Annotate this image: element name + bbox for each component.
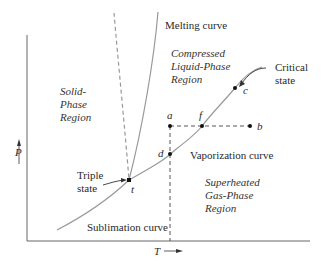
triple-state-label: Triple state bbox=[77, 169, 104, 195]
liquid-phase-region-label: Compressed Liquid-Phase Region bbox=[171, 47, 230, 86]
temperature-arrow-icon bbox=[164, 249, 183, 253]
melting-curve bbox=[129, 12, 158, 180]
point-d bbox=[168, 152, 172, 156]
point-c bbox=[233, 86, 237, 90]
critical-state-label: Critical state bbox=[275, 61, 308, 87]
point-b bbox=[248, 124, 252, 128]
triple-point-label: t bbox=[131, 183, 134, 195]
point-f bbox=[200, 124, 204, 128]
melting-curve-label: Melting curve bbox=[165, 19, 227, 31]
y-axis-label: P bbox=[15, 146, 22, 158]
point-a bbox=[168, 124, 172, 128]
critical-point-label: c bbox=[243, 84, 248, 96]
solid-phase-region-label: Solid- Phase Region bbox=[60, 85, 91, 124]
point-b-label: b bbox=[257, 120, 263, 132]
sublimation-curve-label: Sublimation curve bbox=[87, 221, 168, 233]
point-f-label: f bbox=[199, 109, 202, 121]
gas-phase-region-label: Superheated Gas-Phase Region bbox=[205, 176, 260, 215]
metastable-melting-curve bbox=[114, 13, 129, 180]
point-d-label: d bbox=[158, 147, 164, 159]
x-axis-label: T bbox=[154, 245, 160, 257]
vaporization-curve-label: Vaporization curve bbox=[190, 149, 273, 161]
point-t bbox=[127, 178, 131, 182]
triple-state-arrow-icon bbox=[103, 178, 127, 185]
point-a-label: a bbox=[167, 109, 173, 121]
